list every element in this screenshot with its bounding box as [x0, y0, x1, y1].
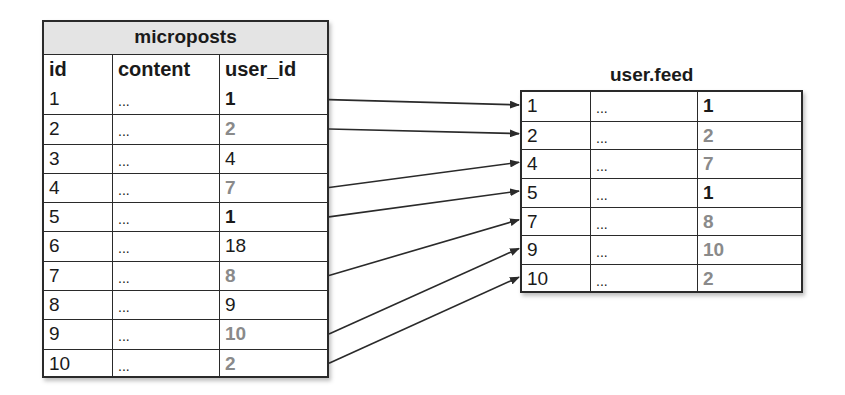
arrow	[329, 248, 519, 334]
arrow	[329, 277, 519, 363]
arrow	[329, 220, 519, 276]
arrow	[329, 100, 519, 105]
arrow	[329, 129, 519, 134]
arrows-layer	[0, 0, 845, 395]
arrow	[329, 191, 519, 217]
arrow	[329, 162, 519, 187]
